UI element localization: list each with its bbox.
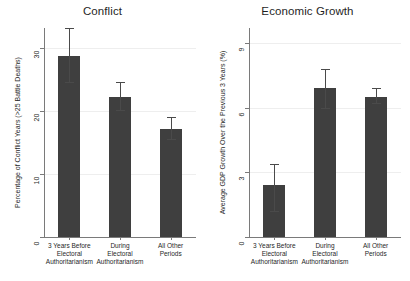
panel-title-economic-growth: Economic Growth — [205, 5, 410, 17]
error-bar-cap-top — [321, 69, 330, 70]
gridline — [249, 43, 401, 44]
x-axis-tick-label: All Other Periods — [347, 242, 404, 258]
bar — [160, 129, 182, 237]
error-bar-cap-top — [116, 82, 125, 83]
error-bar-line — [120, 82, 121, 110]
x-axis-tick-label: During Electoral Authoritarianism — [92, 242, 149, 267]
x-axis-tick — [325, 237, 326, 240]
y-axis-tick-label: 3 — [238, 172, 245, 186]
y-axis-label-conflict: Percentage of Conflict Years (>25 Battle… — [14, 28, 21, 237]
error-bar-cap-top — [372, 88, 381, 89]
error-bar-line — [274, 164, 275, 211]
bar — [314, 88, 336, 237]
figure-bar-charts: Conflict Percentage of Conflict Years (>… — [0, 0, 410, 281]
x-axis-tick-label: 3 Years Before Electoral Authoritarianis… — [41, 242, 98, 267]
plot-area-conflict: 01020303 Years Before Electoral Authorit… — [44, 28, 196, 237]
error-bar-cap-bottom — [270, 211, 279, 212]
y-axis-line — [249, 28, 250, 237]
error-bar-cap-bottom — [167, 139, 176, 140]
gridline — [44, 48, 196, 49]
plot-area-economic-growth: 03693 Years Before Electoral Authoritari… — [249, 28, 401, 237]
error-bar-cap-bottom — [65, 82, 74, 83]
panel-economic-growth: Economic Growth Average GDP Growth Over … — [205, 0, 410, 281]
bar — [365, 97, 387, 237]
x-axis-tick — [376, 237, 377, 240]
error-bar-line — [69, 28, 70, 82]
error-bar-cap-top — [270, 164, 279, 165]
x-axis-tick — [274, 237, 275, 240]
error-bar-line — [376, 88, 377, 103]
y-axis-tick-label: 10 — [33, 174, 40, 188]
y-axis-tick-label: 0 — [33, 237, 40, 251]
y-axis-tick-label: 0 — [238, 237, 245, 251]
y-axis-line — [44, 28, 45, 237]
x-axis-tick — [120, 237, 121, 240]
error-bar-cap-bottom — [116, 110, 125, 111]
y-axis-label-economic-growth: Average GDP Growth Over the Previous 3 Y… — [219, 28, 226, 237]
y-axis-tick-label: 9 — [238, 43, 245, 57]
error-bar-cap-top — [167, 117, 176, 118]
error-bar-cap-bottom — [372, 103, 381, 104]
panel-title-conflict: Conflict — [0, 5, 205, 17]
y-axis-tick-label: 30 — [33, 48, 40, 62]
y-axis-tick-label: 20 — [33, 111, 40, 125]
bar — [109, 97, 131, 237]
y-axis-tick-label: 6 — [238, 107, 245, 121]
panel-conflict: Conflict Percentage of Conflict Years (>… — [0, 0, 205, 281]
x-axis-tick — [69, 237, 70, 240]
x-axis-tick — [171, 237, 172, 240]
error-bar-line — [325, 69, 326, 108]
error-bar-line — [171, 117, 172, 139]
x-axis-tick-label: During Electoral Authoritarianism — [297, 242, 354, 267]
error-bar-cap-bottom — [321, 108, 330, 109]
x-axis-tick-label: 3 Years Before Electoral Authoritarianis… — [246, 242, 303, 267]
bar — [58, 56, 80, 237]
x-axis-tick-label: All Other Periods — [142, 242, 199, 258]
error-bar-cap-top — [65, 28, 74, 29]
